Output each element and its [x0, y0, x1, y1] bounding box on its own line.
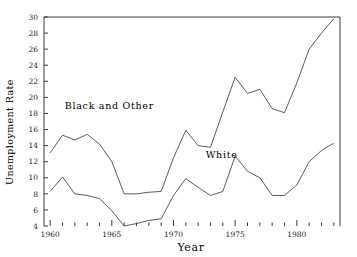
- y-tick-label: 10: [28, 173, 38, 182]
- y-axis-ticks: [44, 17, 48, 226]
- unemployment-rate-chart: 4681012141618202224262830 19601965197019…: [0, 0, 357, 257]
- series-lines: [50, 19, 334, 226]
- chart-canvas: 4681012141618202224262830 19601965197019…: [0, 0, 357, 257]
- y-tick-label: 24: [28, 61, 38, 70]
- axis-frame: [44, 17, 340, 226]
- x-tick-label: 1965: [102, 230, 121, 239]
- y-tick-label: 8: [33, 190, 38, 199]
- series-annotations: Black and OtherWhite: [65, 100, 238, 160]
- y-tick-label: 12: [28, 157, 38, 166]
- x-tick-label: 1960: [41, 230, 60, 239]
- y-tick-label: 14: [28, 141, 38, 150]
- y-tick-label: 4: [33, 222, 38, 231]
- y-tick-label: 30: [28, 13, 38, 22]
- y-tick-label: 26: [28, 45, 38, 54]
- annotation-white: White: [206, 149, 238, 160]
- y-tick-label: 20: [28, 93, 38, 102]
- annotation-black-and-other: Black and Other: [65, 100, 154, 111]
- plot-frame: [44, 17, 340, 226]
- y-axis-tick-labels: 4681012141618202224262830: [28, 13, 38, 231]
- y-axis-title: Unemployment Rate: [4, 79, 15, 185]
- x-axis-title: Year: [176, 241, 204, 254]
- series-line-white: [50, 143, 334, 226]
- x-tick-label: 1975: [226, 230, 245, 239]
- x-axis-tick-labels: 19601965197019751980: [41, 230, 307, 239]
- x-axis-ticks: [50, 220, 334, 226]
- x-tick-label: 1980: [287, 230, 306, 239]
- x-tick-label: 1970: [164, 230, 183, 239]
- y-tick-label: 18: [28, 109, 38, 118]
- y-tick-label: 16: [28, 125, 38, 134]
- y-tick-label: 6: [33, 206, 38, 215]
- y-tick-label: 28: [28, 29, 38, 38]
- y-tick-label: 22: [28, 77, 38, 86]
